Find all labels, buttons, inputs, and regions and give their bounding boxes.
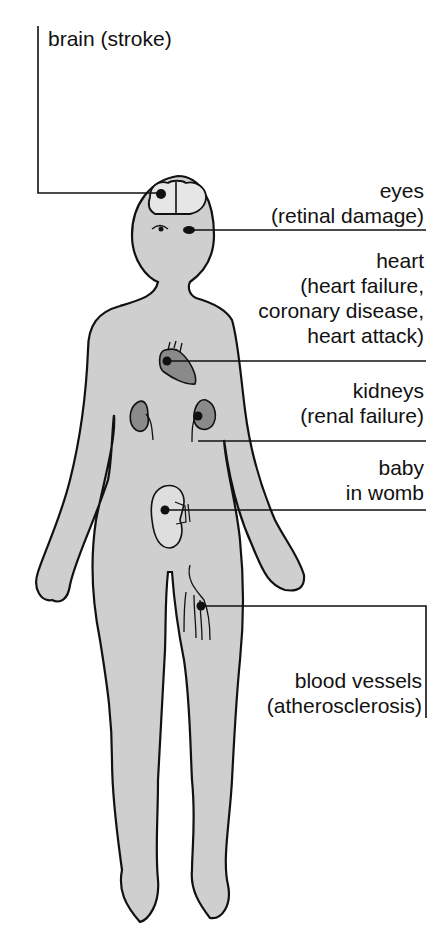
label-eyes-line2: (retinal damage) bbox=[271, 203, 424, 228]
label-baby-line1: baby bbox=[346, 455, 424, 480]
label-heart-line4: heart attack) bbox=[258, 323, 424, 348]
label-heart: heart (heart failure, coronary disease, … bbox=[258, 248, 424, 348]
label-heart-line3: coronary disease, bbox=[258, 298, 424, 323]
label-eyes-line1: eyes bbox=[271, 178, 424, 203]
label-vessels: blood vessels (atherosclerosis) bbox=[267, 668, 422, 718]
label-kidneys-line2: (renal failure) bbox=[300, 403, 424, 428]
label-baby: baby in womb bbox=[346, 455, 424, 505]
label-eyes: eyes (retinal damage) bbox=[271, 178, 424, 228]
label-heart-line2: (heart failure, bbox=[258, 273, 424, 298]
label-kidneys-line1: kidneys bbox=[300, 378, 424, 403]
brain-icon bbox=[149, 181, 206, 214]
label-brain-line1: brain (stroke) bbox=[48, 26, 172, 51]
label-heart-line1: heart bbox=[258, 248, 424, 273]
brain-leader bbox=[38, 26, 161, 193]
label-kidneys: kidneys (renal failure) bbox=[300, 378, 424, 428]
label-baby-line2: in womb bbox=[346, 480, 424, 505]
label-brain: brain (stroke) bbox=[48, 26, 172, 51]
label-vessels-line2: (atherosclerosis) bbox=[267, 693, 422, 718]
label-vessels-line1: blood vessels bbox=[267, 668, 422, 693]
